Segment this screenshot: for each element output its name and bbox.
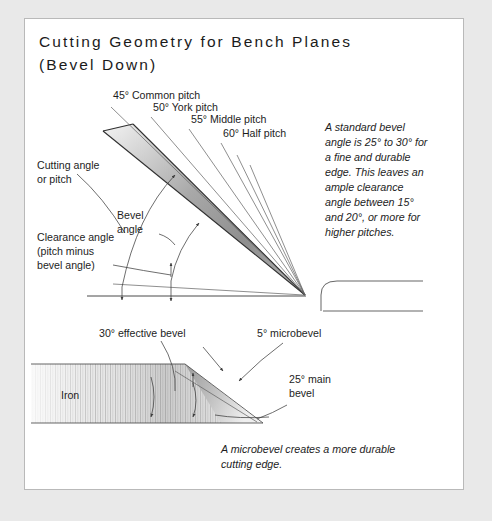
pitch-ray-fan-a <box>237 155 305 295</box>
label-effective-bevel: 30° effective bevel <box>99 327 186 339</box>
microbevel-leader <box>239 343 283 381</box>
bevel-angle-arc <box>171 223 199 281</box>
plane-sole-profile <box>321 281 423 311</box>
side-note-line-3: a fine and durable <box>325 151 411 163</box>
side-note-line-5: ample clearance <box>325 181 403 193</box>
clearance-face-line <box>113 284 304 295</box>
side-note-line-7: and 20°, or more for <box>325 211 421 223</box>
label-microbevel: 5° microbevel <box>257 327 321 339</box>
caption-line2: cutting edge. <box>221 458 282 470</box>
label-main-bevel-line2: bevel <box>289 387 314 399</box>
microbevel-leader-2 <box>203 347 223 371</box>
label-middle-pitch: 55° Middle pitch <box>191 113 267 125</box>
label-iron: Iron <box>61 389 79 401</box>
label-common-pitch: 45° Common pitch <box>113 89 200 101</box>
bevel-angle-leader <box>159 234 175 245</box>
label-york-pitch: 50° York pitch <box>153 101 218 113</box>
side-note: A standard bevel angle is 25° to 30° for… <box>324 121 428 238</box>
label-clearance-angle-line1: Clearance angle <box>37 231 114 243</box>
label-cutting-angle-line2: or pitch <box>37 173 72 185</box>
figure-title-line2: (Bevel Down) <box>39 56 157 73</box>
pitch-ray-60 <box>221 143 305 295</box>
side-note-line-1: A standard bevel <box>324 121 405 133</box>
clearance-angle-leader <box>113 265 171 275</box>
side-note-line-2: angle is 25° to 30° for <box>325 136 428 148</box>
cutting-geometry-figure: Cutting Geometry for Bench Planes (Bevel… <box>25 19 463 489</box>
side-note-line-4: edge. This leaves an <box>325 166 424 178</box>
label-clearance-angle-line3: bevel angle) <box>37 259 95 271</box>
side-note-line-6: angle between 15° <box>325 196 414 208</box>
figure-title-line1: Cutting Geometry for Bench Planes <box>39 33 352 50</box>
blade-bevel-edge <box>133 124 305 295</box>
side-note-line-8: higher pitches. <box>325 226 395 238</box>
label-cutting-angle-line1: Cutting angle <box>37 159 100 171</box>
label-bevel-angle-line2: angle <box>117 223 143 235</box>
figure-frame: Cutting Geometry for Bench Planes (Bevel… <box>24 18 464 490</box>
label-clearance-angle-line2: (pitch minus <box>37 245 94 257</box>
lower-diagram: Iron 30° effective bevel 5° microbevel 2… <box>31 327 331 423</box>
label-half-pitch: 60° Half pitch <box>223 127 286 139</box>
main-bevel-leader <box>257 405 287 419</box>
label-main-bevel-line1: 25° main <box>289 373 331 385</box>
caption-line1: A microbevel creates a more durable <box>220 443 395 455</box>
pitch-ray-fan-b <box>250 165 305 295</box>
label-bevel-angle-line1: Bevel <box>117 209 144 221</box>
lower-caption: A microbevel creates a more durable cutt… <box>220 443 395 470</box>
